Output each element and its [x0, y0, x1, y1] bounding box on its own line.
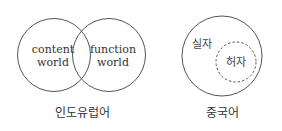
inner-label: 허자: [226, 56, 246, 69]
indo-european-diagram: content world function world 인도유럽어: [18, 19, 146, 121]
outer-circle: [182, 16, 262, 96]
function-label-line2: world: [97, 56, 129, 69]
chinese-caption: 중국어: [206, 106, 239, 120]
content-label-line2: world: [37, 56, 69, 69]
outer-label: 실자: [192, 38, 212, 51]
diagram-canvas: content world function world 인도유럽어 실자 허자…: [0, 0, 282, 131]
indo-european-caption: 인도유럽어: [55, 106, 110, 120]
content-label-line1: content: [32, 43, 75, 56]
function-label-line1: function: [90, 43, 136, 56]
chinese-diagram: 실자 허자 중국어: [182, 16, 262, 120]
